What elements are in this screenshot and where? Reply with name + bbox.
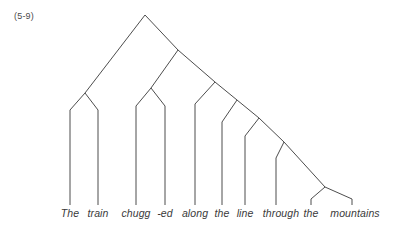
leaf-label-4: along [182, 207, 208, 219]
leaf-label-2: chugg [121, 207, 150, 219]
tree-branch-vp-left-spine [151, 50, 178, 88]
tree-branch-np3-right-leg [325, 187, 352, 199]
tree-branch-vp-right-spine [178, 50, 215, 82]
tree-branch-verb-right-leg [151, 88, 165, 106]
tree-branch-np2-right-spine [237, 100, 259, 118]
tree-branch-np2b-left-leg [245, 118, 259, 136]
tree-branch-root-left-spine [85, 15, 145, 93]
tree-leaf-line-group [70, 104, 352, 205]
tree-branch-verb-left-leg [136, 88, 151, 106]
tree-branch-np3-left-leg [311, 187, 325, 199]
syntax-tree-diagram [0, 0, 399, 236]
tree-branch-pp1-left-leg [195, 82, 215, 104]
tree-branch-pp2-right-spine [284, 142, 325, 187]
leaf-label-9: mountains [330, 207, 379, 219]
tree-branch-root-right-spine [145, 15, 178, 50]
leaf-label-7: through [263, 207, 299, 219]
tree-branch-pp2-left-leg [276, 142, 284, 158]
tree-branch-pp1-right-spine [215, 82, 237, 100]
tree-branch-np2-left-leg [222, 100, 237, 122]
tree-branch-np1-left-leg [70, 93, 85, 110]
leaf-label-8: the [304, 207, 319, 219]
tree-branch-np1-right-leg [85, 93, 98, 110]
tree-branch-np2b-right-spine [259, 118, 284, 142]
leaf-label-1: train [88, 207, 109, 219]
leaf-label-0: The [61, 207, 79, 219]
tree-branch-group [70, 15, 352, 199]
leaf-label-6: line [237, 207, 254, 219]
leaf-label-3: -ed [157, 207, 172, 219]
figure-root: (5-9) Thetrainchugg-edalongthelinethroug… [0, 0, 399, 236]
leaf-label-5: the [215, 207, 230, 219]
